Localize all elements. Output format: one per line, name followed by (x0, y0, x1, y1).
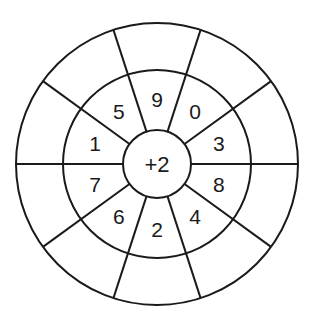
inner-number: 1 (89, 132, 101, 155)
inner-number: 8 (213, 173, 225, 196)
inner-number: 2 (151, 218, 163, 241)
number-wheel: +2 9038426715 (0, 0, 318, 332)
inner-number: 7 (89, 173, 101, 196)
inner-number: 4 (189, 205, 201, 228)
inner-number: 6 (113, 205, 125, 228)
answer-cell[interactable] (113, 253, 200, 305)
center-operation: +2 (144, 152, 169, 177)
inner-number: 0 (189, 100, 201, 123)
inner-number: 3 (213, 132, 225, 155)
answer-cell[interactable] (113, 23, 200, 75)
inner-number: 9 (151, 88, 163, 111)
inner-number: 5 (113, 100, 125, 123)
